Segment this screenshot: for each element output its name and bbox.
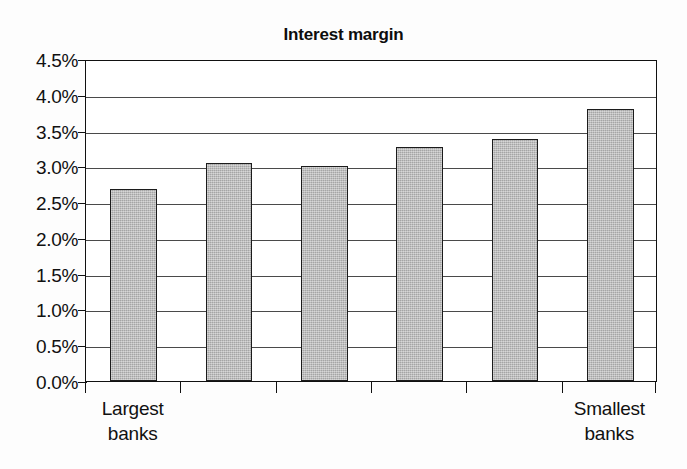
x-cat-label-line2: banks [85, 421, 180, 446]
y-axis: 4.5%4.0%3.5%3.0%2.5%2.0%1.5%1.0%0.5%0.0% [0, 60, 78, 382]
x-cat-label-line1: Largest [85, 396, 180, 421]
x-tick-mark [371, 382, 372, 393]
bar [110, 189, 157, 381]
x-tick-mark [466, 382, 467, 393]
bar [396, 147, 443, 381]
x-tick-mark [655, 382, 656, 393]
x-axis-labels: LargestbanksSmallestbanks [85, 396, 657, 466]
bars-group [86, 61, 656, 381]
x-axis-ticks [85, 382, 657, 394]
y-tick-label: 0.5% [0, 337, 78, 356]
plot-area [85, 60, 657, 382]
x-tick-mark [180, 382, 181, 393]
y-tick-label: 1.0% [0, 301, 78, 320]
y-tick-label: 2.0% [0, 229, 78, 248]
chart-figure: Interest margin 4.5%4.0%3.5%3.0%2.5%2.0%… [0, 0, 687, 469]
x-category-label: Largestbanks [85, 396, 180, 446]
y-tick-label: 2.5% [0, 194, 78, 213]
x-tick-mark [562, 382, 563, 393]
y-tick-label: 1.5% [0, 265, 78, 284]
y-tick-label: 4.5% [0, 51, 78, 70]
x-category-label: Smallestbanks [562, 396, 657, 446]
bar [206, 163, 253, 381]
y-tick-label: 3.5% [0, 122, 78, 141]
bar [301, 166, 348, 381]
x-tick-mark [85, 382, 86, 393]
y-tick-label: 0.0% [0, 373, 78, 392]
chart-title: Interest margin [0, 25, 687, 45]
bar [587, 109, 634, 381]
x-tick-mark [276, 382, 277, 393]
x-cat-label-line2: banks [562, 421, 657, 446]
x-cat-label-line1: Smallest [562, 396, 657, 421]
bar [492, 139, 539, 381]
y-tick-label: 3.0% [0, 158, 78, 177]
y-tick-label: 4.0% [0, 86, 78, 105]
